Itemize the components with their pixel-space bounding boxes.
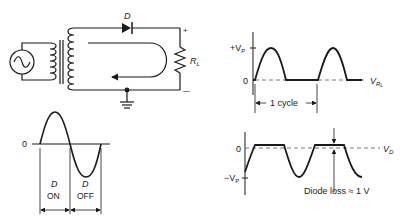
plus-terminal: +	[183, 26, 188, 35]
load-voltage-waveform	[250, 32, 365, 113]
half-wave-rectifier-diagram: D + — RL 0 D ON D OFF +VP 0 VRL 1 cycle	[0, 0, 415, 224]
diode-icon	[122, 22, 132, 34]
one-cycle-label: 1 cycle	[270, 98, 298, 108]
primary-wire	[22, 43, 50, 80]
vd-label: VD	[383, 144, 394, 155]
d-on-label-d: D	[51, 179, 58, 189]
diode-label: D	[124, 11, 131, 21]
ac-source-icon	[10, 50, 34, 74]
input-zero-label: 0	[22, 139, 27, 149]
resistor-label: RL	[190, 56, 200, 67]
resistor-icon	[175, 47, 185, 73]
vd-zero-label: 0	[236, 144, 241, 154]
circuit	[10, 28, 185, 108]
vrl-label: VRL	[370, 76, 383, 88]
d-on-label: ON	[47, 191, 60, 201]
input-waveform	[32, 112, 110, 214]
minus-terminal: —	[183, 87, 190, 94]
current-flow-arrow	[88, 43, 167, 77]
diode-loss-label: Diode loss ≈ 1 V	[304, 186, 369, 196]
secondary-coil-icon	[68, 28, 74, 90]
diode-voltage-waveform	[242, 128, 380, 195]
d-off-label: OFF	[77, 191, 94, 201]
vp-label: +VP	[230, 43, 245, 54]
d-off-label-d: D	[82, 179, 89, 189]
neg-vp-label: −VP	[224, 173, 239, 184]
vrl-zero-label: 0	[243, 76, 248, 86]
ground-icon	[120, 88, 134, 108]
primary-coil-icon	[50, 43, 56, 80]
